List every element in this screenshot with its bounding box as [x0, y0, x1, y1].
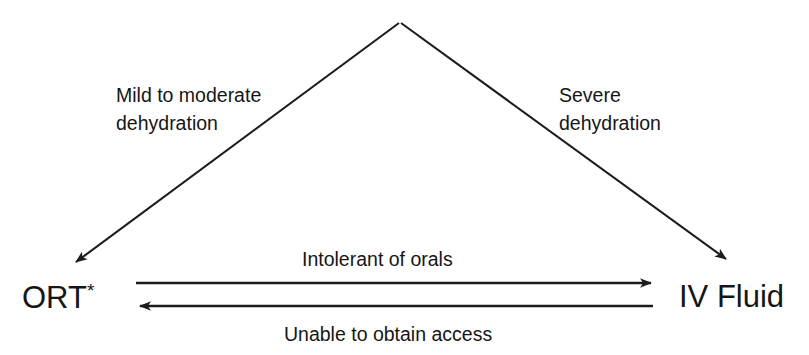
node-iv-fluid-label: IV Fluid: [679, 279, 784, 314]
edge-label-line1: Unable to obtain access: [284, 320, 492, 348]
connector-apex-to-ort: [76, 23, 399, 262]
node-ort: ORT*: [22, 281, 94, 313]
node-iv-fluid: IV Fluid: [679, 281, 784, 312]
connector-apex-to-iv-fluid: [401, 23, 726, 259]
edge-label-unable-to-obtain-access: Unable to obtain access: [284, 320, 492, 348]
edge-label-line1: Severe: [559, 81, 661, 109]
edge-label-intolerant-of-orals: Intolerant of orals: [302, 245, 453, 273]
edge-label-line2: dehydration: [559, 109, 661, 137]
diagram-canvas: ORT* IV Fluid Mild to moderatedehydratio…: [0, 0, 809, 355]
edge-label-line1: Intolerant of orals: [302, 245, 453, 273]
node-ort-label: ORT: [22, 280, 87, 315]
edge-label-severe-dehydration: Severedehydration: [559, 81, 661, 137]
edge-label-line1: Mild to moderate: [116, 81, 261, 109]
edge-label-mild-to-moderate-dehydration: Mild to moderatedehydration: [116, 81, 261, 137]
node-ort-footnote-marker: *: [87, 280, 94, 301]
edge-label-line2: dehydration: [116, 109, 261, 137]
